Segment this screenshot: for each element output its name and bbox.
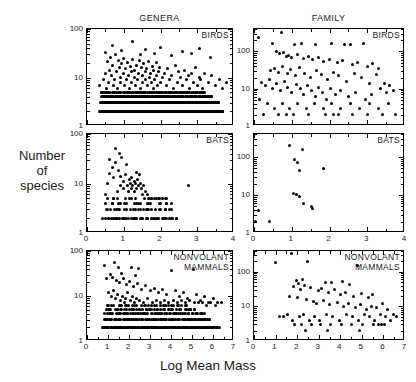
x-tick (367, 29, 368, 33)
y-tick (230, 37, 233, 38)
x-tick-label: 2 (157, 234, 161, 243)
data-point (208, 318, 211, 321)
data-point (385, 125, 388, 126)
data-point (177, 340, 180, 341)
data-point (331, 315, 334, 318)
x-tick (197, 227, 198, 231)
data-point (156, 340, 159, 341)
data-point (202, 125, 205, 126)
data-point (116, 125, 119, 126)
data-point (121, 340, 124, 341)
data-point (384, 315, 387, 318)
data-point (308, 319, 311, 322)
y-tick (230, 97, 233, 98)
y-tick (230, 209, 233, 210)
data-point (140, 340, 143, 341)
data-point (349, 102, 352, 105)
data-point (124, 197, 127, 200)
data-point (214, 340, 217, 341)
y-tick (254, 104, 257, 105)
x-tick (216, 229, 217, 232)
data-point (322, 299, 325, 302)
data-point (317, 56, 320, 59)
data-point (105, 340, 108, 341)
x-tick (254, 335, 255, 339)
x-tick (105, 29, 106, 32)
plot-panel-family-bats: BATS (253, 133, 404, 232)
data-point (179, 76, 182, 79)
data-point (197, 301, 200, 304)
data-point (136, 78, 139, 81)
data-point (141, 81, 144, 84)
y-tick (254, 139, 257, 140)
data-point (143, 197, 146, 200)
data-point (198, 125, 201, 126)
data-point (108, 340, 111, 341)
data-point (97, 125, 100, 126)
y-tick (401, 282, 404, 283)
data-point (104, 51, 107, 54)
data-point (210, 125, 213, 126)
data-point (97, 125, 100, 126)
data-point (136, 340, 139, 341)
data-point (317, 86, 320, 89)
data-point (162, 125, 165, 126)
y-tick (87, 265, 90, 266)
y-tick (401, 308, 404, 309)
data-point (392, 89, 395, 92)
data-point (199, 125, 202, 126)
y-tick (230, 298, 233, 299)
data-point (146, 125, 149, 126)
x-tick (142, 229, 143, 232)
data-point (180, 340, 183, 341)
y-tick (401, 57, 404, 58)
data-point (103, 340, 106, 341)
data-point (200, 125, 203, 126)
data-point (309, 76, 312, 79)
data-point (172, 340, 175, 341)
data-point (283, 80, 286, 83)
data-point (140, 125, 143, 126)
data-point (370, 305, 373, 308)
x-tick (308, 251, 309, 254)
data-point (301, 148, 304, 151)
y-tick (87, 191, 90, 192)
data-point (100, 232, 103, 233)
data-point (163, 125, 166, 126)
data-point (126, 125, 129, 126)
y-tick (401, 163, 404, 164)
data-point (159, 232, 162, 233)
data-point (212, 125, 215, 126)
data-point (162, 125, 165, 126)
data-point (191, 340, 194, 341)
data-point (226, 125, 229, 126)
y-axis-label-line: of (4, 163, 80, 178)
data-point (165, 202, 168, 205)
x-tick (254, 227, 255, 231)
y-tick (401, 251, 404, 252)
data-point (393, 125, 396, 126)
x-tick (273, 29, 274, 32)
x-tick-label: 4 (337, 342, 341, 351)
data-point (327, 291, 330, 294)
data-point (125, 163, 128, 166)
data-point (118, 152, 121, 155)
data-point (172, 125, 175, 126)
data-point (213, 340, 216, 341)
data-point (103, 125, 106, 126)
data-point (146, 297, 149, 300)
x-tick (203, 337, 204, 340)
y-tick (87, 48, 90, 49)
data-point (104, 340, 107, 341)
data-point (190, 125, 193, 126)
y-tick (254, 94, 257, 95)
data-point (166, 67, 169, 70)
data-point (134, 84, 137, 87)
data-point (310, 323, 313, 326)
y-tick (401, 279, 404, 280)
y-tick (87, 54, 90, 55)
y-tick (254, 206, 257, 207)
y-tick (228, 296, 232, 297)
data-point (107, 232, 110, 233)
data-point (106, 340, 109, 341)
